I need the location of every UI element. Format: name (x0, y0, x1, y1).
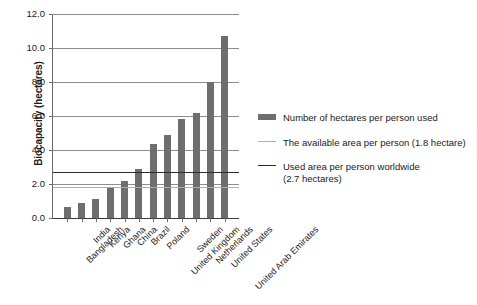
legend-light-line-icon (258, 141, 276, 142)
y-tick-label: 4.0 (11, 145, 45, 155)
x-tick-mark (82, 218, 83, 222)
x-tick-mark (125, 218, 126, 222)
reference-line-available-area (53, 187, 239, 188)
legend-item-bars: Number of hectares per person used (258, 112, 470, 124)
legend-item-worldwide-used: Used area per person worldwide (2.7 hect… (258, 161, 470, 184)
bar (121, 181, 128, 218)
x-tick-mark (153, 218, 154, 222)
x-tick-mark (167, 218, 168, 222)
legend-label-bars: Number of hectares per person used (283, 112, 438, 124)
x-tick-mark (196, 218, 197, 222)
legend-item-available-area: The available area per person (1.8 hecta… (258, 137, 470, 149)
biocapacity-bar-chart: Biocapacity (hectares) 0.02.04.06.08.010… (0, 0, 477, 305)
bar (178, 119, 185, 218)
legend-label-worldwide-used-line1: Used area per person worldwide (283, 161, 420, 172)
bar (78, 203, 85, 218)
y-tick-label: 8.0 (11, 77, 45, 87)
plot-area: 0.02.04.06.08.010.012.0 (52, 14, 239, 219)
x-tick-mark (96, 218, 97, 222)
x-tick-mark (182, 218, 183, 222)
x-tick-mark (139, 218, 140, 222)
bar (207, 82, 214, 218)
bar (150, 144, 157, 218)
y-tick-label: 12.0 (11, 9, 45, 19)
bar (164, 135, 171, 218)
x-tick-mark (110, 218, 111, 222)
chart-legend: Number of hectares per person used The a… (258, 112, 470, 197)
bar (135, 169, 142, 218)
legend-label-available-area: The available area per person (1.8 hecta… (283, 137, 466, 149)
bar (221, 36, 228, 218)
y-tick-mark (49, 218, 53, 219)
y-tick-label: 2.0 (11, 179, 45, 189)
legend-dark-line-icon (258, 165, 276, 166)
y-tick-label: 6.0 (11, 111, 45, 121)
bar (193, 113, 200, 218)
x-tick-mark (210, 218, 211, 222)
legend-bar-swatch-icon (258, 114, 276, 120)
bar (64, 207, 71, 218)
reference-line-worldwide-used (53, 172, 239, 173)
bar (92, 199, 99, 218)
bar (107, 187, 114, 218)
legend-label-worldwide-used-line2: (2.7 hectares) (283, 173, 342, 184)
x-tick-mark (67, 218, 68, 222)
x-tick-mark (225, 218, 226, 222)
y-tick-label: 10.0 (11, 43, 45, 53)
y-tick-label: 0.0 (11, 213, 45, 223)
legend-label-worldwide-used: Used area per person worldwide (2.7 hect… (283, 161, 420, 184)
